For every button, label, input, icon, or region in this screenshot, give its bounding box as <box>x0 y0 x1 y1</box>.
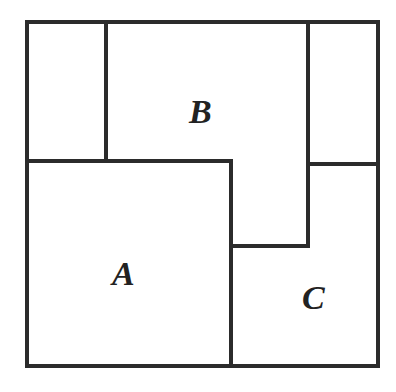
region-label-c: C <box>302 279 325 316</box>
partition-diagram: B A C <box>0 0 396 392</box>
region-label-a: A <box>110 255 135 292</box>
outer-square <box>27 22 378 366</box>
region-label-b: B <box>188 93 212 130</box>
